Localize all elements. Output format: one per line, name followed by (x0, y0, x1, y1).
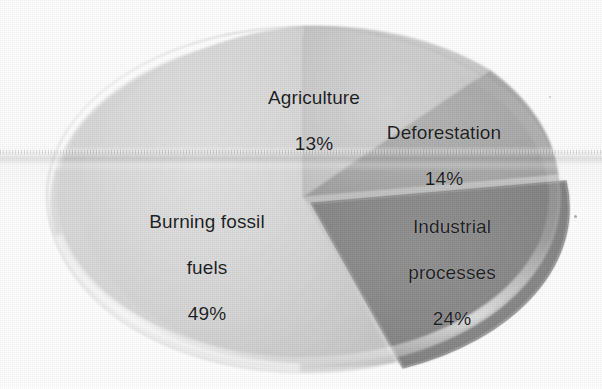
pie-label-industrial-name-line1: Industrial (372, 215, 532, 238)
pie-labels: Agriculture 13% Deforestation 14% Indust… (0, 0, 602, 389)
pie-label-industrial-processes: Industrial processes 24% (372, 192, 532, 353)
pie-label-burning-fossil-fuels: Burning fossil fuels 49% (112, 187, 302, 348)
pie-label-fossil-value: 49% (112, 302, 302, 325)
pie-label-industrial-name-line2: processes (372, 261, 532, 284)
pie-label-industrial-value: 24% (372, 307, 532, 330)
pie-label-deforestation-name: Deforestation (355, 121, 533, 144)
scan-speck-right (574, 215, 577, 218)
scan-speck-top-right (549, 96, 551, 98)
pie-label-fossil-name-line1: Burning fossil (112, 210, 302, 233)
pie-chart-figure: Agriculture 13% Deforestation 14% Indust… (0, 0, 602, 389)
pie-label-deforestation-value: 14% (355, 167, 533, 190)
pie-label-fossil-name-line2: fuels (112, 256, 302, 279)
